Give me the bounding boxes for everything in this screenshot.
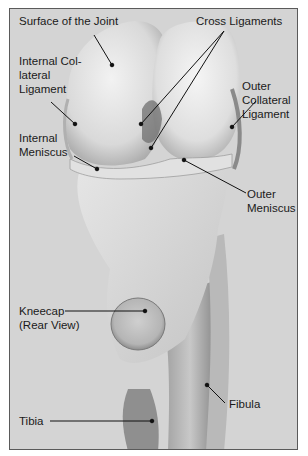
label-tibia: Tibia bbox=[19, 414, 44, 428]
label-internal-meniscus: Internal Meniscus bbox=[19, 131, 68, 159]
label-surface-of-the-joint: Surface of the Joint bbox=[19, 14, 118, 28]
label-fibula: Fibula bbox=[229, 397, 260, 411]
label-outer-meniscus: Outer Meniscus bbox=[247, 187, 296, 215]
label-outer-collateral-ligament: Outer Collateral Ligament bbox=[242, 79, 291, 121]
anatomy-figure-frame: Surface of the Joint Cross Ligaments Int… bbox=[9, 8, 298, 450]
label-kneecap-rear-view: Kneecap (Rear View) bbox=[19, 304, 80, 332]
label-cross-ligaments: Cross Ligaments bbox=[196, 14, 282, 28]
label-internal-collateral-ligament: Internal Col- lateral Ligament bbox=[19, 54, 82, 96]
